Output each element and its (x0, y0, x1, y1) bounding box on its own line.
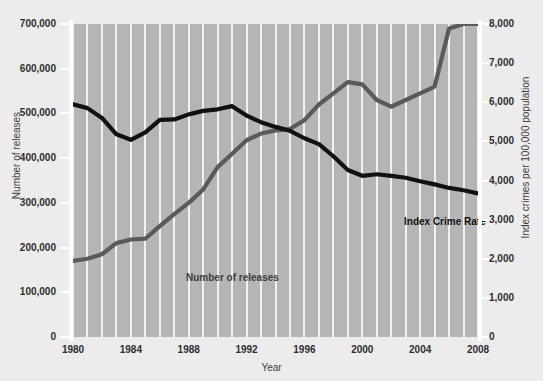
left-tick-label: 0 (50, 332, 56, 342)
left-tick (60, 336, 70, 338)
right-tick-label: 6,000 (489, 97, 514, 107)
chart-root: Number of releases Index Crime Rate 0100… (0, 0, 543, 381)
left-tick (60, 291, 70, 293)
left-axis-title: Number of releases (11, 96, 22, 216)
left-tick (60, 23, 70, 25)
left-tick-label: 700,000 (20, 19, 56, 29)
left-tick (60, 157, 70, 159)
x-tick-label: 1988 (178, 345, 200, 355)
x-tick-label: 1984 (120, 345, 142, 355)
left-tick-label: 600,000 (20, 64, 56, 74)
left-tick (60, 247, 70, 249)
plot-area: Number of releases Index Crime Rate (73, 24, 478, 337)
right-tick-label: 7,000 (489, 58, 514, 68)
right-axis-title: Index crimes per 100,000 population (520, 43, 531, 273)
left-tick-label: 300,000 (20, 198, 56, 208)
left-tick-label: 500,000 (20, 108, 56, 118)
right-tick-label: 1,000 (489, 293, 514, 303)
x-tick-label: 2008 (467, 345, 489, 355)
series-lines (73, 24, 478, 337)
line-index-crime-rate (73, 104, 478, 193)
left-tick (60, 202, 70, 204)
left-tick-label: 100,000 (20, 287, 56, 297)
x-tick-label: 1996 (293, 345, 315, 355)
right-tick-label: 2,000 (489, 254, 514, 264)
right-tick-label: 3,000 (489, 215, 514, 225)
right-tick-label: 0 (489, 332, 495, 342)
right-tick-label: 4,000 (489, 176, 514, 186)
series-annotation-crime-rate: Index Crime Rate (404, 216, 486, 227)
x-axis-title: Year (0, 362, 543, 373)
left-tick-label: 200,000 (20, 243, 56, 253)
right-tick-label: 5,000 (489, 136, 514, 146)
x-tick-label: 2000 (351, 345, 373, 355)
x-tick-label: 1980 (62, 345, 84, 355)
left-tick (60, 112, 70, 114)
x-tick-label: 2004 (409, 345, 431, 355)
series-annotation-releases: Number of releases (186, 272, 279, 283)
x-tick-label: 1992 (235, 345, 257, 355)
left-tick-label: 400,000 (20, 153, 56, 163)
right-tick-label: 8,000 (489, 19, 514, 29)
left-tick (60, 68, 70, 70)
